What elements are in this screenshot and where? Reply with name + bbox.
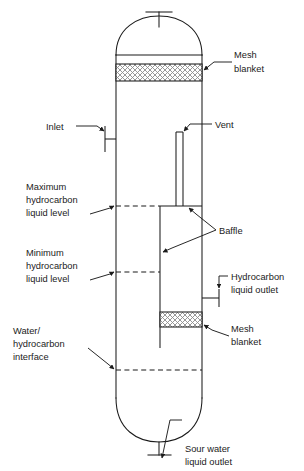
leader-hc-outlet bbox=[219, 276, 228, 288]
leader-lines bbox=[76, 62, 232, 458]
inlet-label: Inlet bbox=[46, 122, 64, 132]
leader-interface bbox=[88, 348, 114, 369]
vent-label: Vent bbox=[215, 120, 234, 130]
mesh-blanket-top-line2: blanket bbox=[234, 64, 264, 74]
max-level-line1: Maximum bbox=[26, 182, 67, 192]
leader-vent bbox=[184, 124, 212, 131]
bottom-head bbox=[116, 398, 202, 442]
min-level-line1: Minimum bbox=[26, 248, 64, 258]
vent-pipe bbox=[176, 132, 183, 206]
max-level-line2: hydrocarbon bbox=[26, 195, 78, 205]
leader-mesh-top bbox=[204, 62, 232, 70]
level-lines bbox=[116, 206, 202, 370]
label-mesh-blanket-bottom: Mesh blanket bbox=[231, 324, 261, 347]
max-level-line3: liquid level bbox=[26, 208, 69, 218]
hydrocarbon-outlet-line2: liquid outlet bbox=[231, 285, 278, 295]
mesh-blanket-bottom-line2: blanket bbox=[231, 337, 261, 347]
label-baffle: Baffle bbox=[219, 226, 243, 236]
sour-water-outlet-line2: liquid outlet bbox=[185, 457, 232, 467]
hydrocarbon-outlet-line1: Hydrocarbon bbox=[231, 272, 284, 282]
bottom-nozzle bbox=[148, 442, 171, 455]
leader-max-level bbox=[90, 206, 114, 214]
inlet-nozzle bbox=[105, 126, 116, 152]
label-min-level: Minimum hydrocarbon liquid level bbox=[26, 248, 78, 284]
interface-line3: interface bbox=[13, 352, 49, 362]
leader-min-level bbox=[90, 272, 114, 280]
baffle-label: Baffle bbox=[219, 226, 243, 236]
mesh-blanket-bottom-line1: Mesh bbox=[231, 324, 254, 334]
interface-line2: hydrocarbon bbox=[13, 339, 65, 349]
mesh-blanket-top bbox=[116, 64, 202, 81]
label-max-level: Maximum hydrocarbon liquid level bbox=[26, 182, 78, 218]
leader-mesh-bottom bbox=[204, 325, 229, 336]
label-hydrocarbon-outlet: Hydrocarbon liquid outlet bbox=[231, 272, 284, 295]
leader-baffle-b bbox=[163, 230, 216, 252]
separator-vessel-diagram: Mesh blanket Inlet Vent Maximum hydrocar… bbox=[0, 0, 304, 471]
interface-line1: Water/ bbox=[13, 326, 40, 336]
leader-sour-outlet bbox=[162, 420, 182, 458]
mesh-blanket-bottom bbox=[160, 312, 202, 327]
label-interface: Water/ hydrocarbon interface bbox=[13, 326, 65, 362]
min-level-line2: hydrocarbon bbox=[26, 261, 78, 271]
label-vent: Vent bbox=[215, 120, 234, 130]
label-sour-water-outlet: Sour water liquid outlet bbox=[185, 444, 232, 467]
leader-inlet bbox=[76, 126, 104, 131]
hydrocarbon-outlet-nozzle bbox=[202, 289, 219, 307]
mesh-blanket-top-line1: Mesh bbox=[234, 50, 257, 60]
label-mesh-blanket-top: Mesh blanket bbox=[234, 50, 264, 74]
top-nozzle bbox=[146, 12, 172, 27]
label-inlet: Inlet bbox=[46, 122, 64, 132]
figure-canvas: Mesh blanket Inlet Vent Maximum hydrocar… bbox=[0, 0, 304, 471]
sour-water-outlet-line1: Sour water bbox=[185, 444, 230, 454]
min-level-line3: liquid level bbox=[26, 274, 69, 284]
